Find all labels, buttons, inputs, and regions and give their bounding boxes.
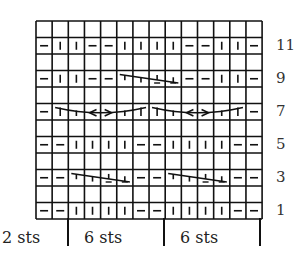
row-label-1: 1: [276, 202, 286, 218]
row-label-9: 9: [276, 70, 286, 86]
repeat-divider-3: [259, 218, 261, 246]
row-label-5: 5: [276, 136, 286, 152]
repeat-divider-2: [163, 218, 165, 246]
row-label-11: 11: [276, 37, 295, 53]
label-2-sts: 2 sts: [2, 228, 40, 247]
row-label-3: 3: [276, 169, 286, 185]
label-6-sts-1: 6 sts: [84, 228, 122, 247]
row-label-7: 7: [276, 103, 286, 119]
label-6-sts-2: 6 sts: [180, 228, 218, 247]
repeat-divider-1: [67, 218, 69, 246]
knitting-chart-grid: [35, 20, 265, 220]
